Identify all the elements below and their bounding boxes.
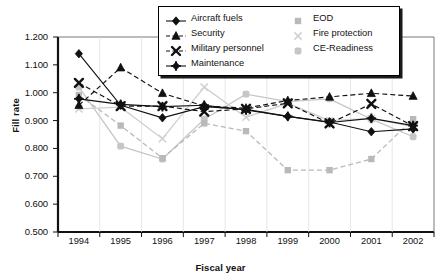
legend-swatch-x-bold-icon	[165, 45, 189, 57]
legend-label: EOD	[313, 13, 333, 23]
legend-label: Maintenance	[191, 58, 244, 68]
legend-label: CE-Readiness	[313, 43, 373, 53]
legend-swatch-square-round-icon	[287, 45, 311, 57]
legend-swatch-diamond-icon	[165, 15, 189, 27]
legend-label: Aircraft fuels	[191, 13, 243, 23]
legend-label: Security	[191, 28, 225, 38]
legend-swatch-square-icon	[287, 15, 311, 27]
chart-legend: Aircraft fuelsSecurityMilitary personnel…	[158, 6, 400, 76]
series-ce-readiness	[75, 84, 416, 163]
legend-swatch-triangle-icon	[165, 30, 189, 42]
legend-swatch-x-light-icon	[287, 30, 311, 42]
legend-label: Military personnel	[191, 43, 264, 53]
chart-figure: Fill rate Fiscal year 1.2001.1001.0000.9…	[0, 0, 441, 279]
legend-swatch-plus-diamond-icon	[165, 60, 189, 72]
legend-label: Fire protection	[313, 28, 372, 38]
